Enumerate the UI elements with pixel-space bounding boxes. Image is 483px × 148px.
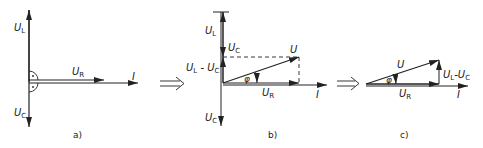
- panel-b: UL UC UL - UC U φ UR I UC b): [186, 12, 327, 140]
- right-angle-dot: [32, 75, 34, 77]
- caption-a: a): [73, 130, 82, 140]
- phi-arc: [255, 72, 257, 83]
- label-ul: UL: [14, 22, 25, 35]
- label-ul: UL: [205, 25, 216, 38]
- caption-c: c): [400, 130, 408, 140]
- label-uc-top: UC: [228, 42, 240, 55]
- label-ul-minus-uc: UL - UC: [186, 62, 220, 75]
- phasor-diagram: UL UR I UC a) UL UC UL - UC U φ UR I UC …: [0, 0, 483, 148]
- u-vector: [223, 57, 299, 83]
- label-current: I: [316, 89, 319, 100]
- label-uc: UC: [14, 107, 26, 120]
- label-ur: UR: [399, 88, 411, 101]
- phi-arc: [394, 75, 396, 84]
- label-ul-minus-uc: UL-UC: [443, 69, 470, 82]
- implies-arrow: [337, 77, 359, 90]
- label-ur: UR: [262, 87, 274, 100]
- label-current: I: [132, 71, 135, 82]
- right-angle-dot: [32, 86, 34, 88]
- label-phi: φ: [386, 75, 392, 85]
- panel-c: U φ UL-UC UR I c): [366, 59, 470, 140]
- caption-b: b): [268, 130, 277, 140]
- implies-arrow: [160, 77, 184, 90]
- label-phi: φ: [244, 74, 250, 84]
- label-uc-bottom: UC: [205, 112, 217, 125]
- panel-a: UL UR I UC a): [14, 10, 138, 140]
- label-u: U: [397, 59, 405, 70]
- label-ur: UR: [72, 66, 84, 79]
- label-current: I: [457, 89, 460, 100]
- label-u: U: [290, 44, 298, 55]
